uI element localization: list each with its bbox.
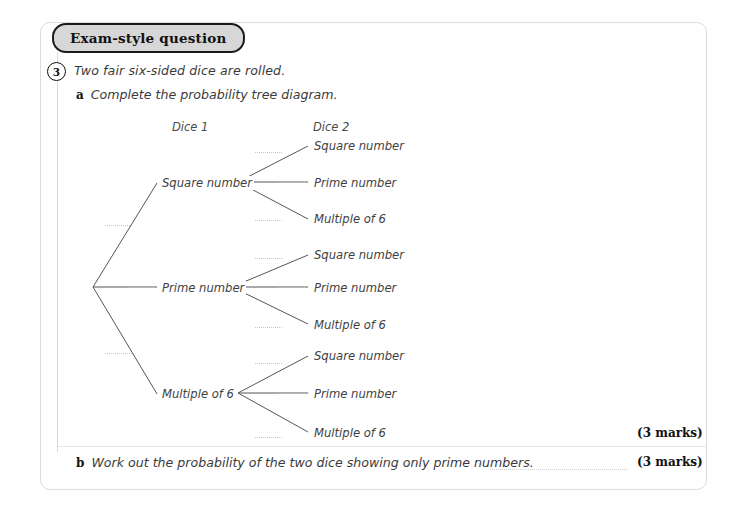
probability-blank-l2-3[interactable] bbox=[255, 219, 282, 221]
probability-blank-l2-2[interactable] bbox=[278, 181, 305, 183]
probability-blank-l2-1[interactable] bbox=[255, 151, 282, 153]
node-level2-1-prime-number: Prime number bbox=[312, 176, 398, 190]
probability-blank-l2-4[interactable] bbox=[255, 257, 282, 259]
branch-l1-3 bbox=[93, 287, 157, 394]
node-level2-3-square-number: Square number bbox=[312, 349, 406, 363]
page-root: Exam-style question 3 Two fair six-sided… bbox=[0, 0, 735, 519]
node-level1-multiple-of-6: Multiple of 6 bbox=[160, 387, 236, 401]
node-level2-1-square-number: Square number bbox=[312, 139, 406, 153]
node-level2-1-multiple-of-6: Multiple of 6 bbox=[312, 212, 388, 226]
probability-blank-l1-3[interactable] bbox=[105, 352, 132, 354]
node-level2-2-multiple-of-6: Multiple of 6 bbox=[312, 318, 388, 332]
probability-blank-l2-9[interactable] bbox=[255, 436, 282, 438]
node-level2-2-prime-number: Prime number bbox=[312, 281, 398, 295]
probability-blank-l2-6[interactable] bbox=[255, 326, 282, 328]
question-number-circle: 3 bbox=[47, 62, 66, 81]
branch-l2-9 bbox=[238, 393, 308, 432]
probability-blank-l1-1[interactable] bbox=[105, 224, 132, 226]
node-level2-3-prime-number: Prime number bbox=[312, 387, 398, 401]
column-heading-dice-2: Dice 2 bbox=[313, 120, 349, 134]
node-level1-square-number: Square number bbox=[160, 176, 254, 190]
probability-tree-diagram: Dice 1 Dice 2 Square number Prime number… bbox=[0, 0, 735, 519]
probability-blank-l2-7[interactable] bbox=[255, 362, 282, 364]
column-heading-dice-1: Dice 1 bbox=[172, 120, 208, 134]
probability-blank-l1-2[interactable] bbox=[128, 286, 155, 288]
node-level2-3-multiple-of-6: Multiple of 6 bbox=[312, 426, 388, 440]
node-level1-prime-number: Prime number bbox=[160, 281, 246, 295]
probability-blank-l2-5[interactable] bbox=[278, 286, 305, 288]
exam-style-question-badge: Exam-style question bbox=[52, 23, 245, 53]
branch-l1-1 bbox=[93, 183, 157, 287]
probability-blank-l2-8[interactable] bbox=[278, 392, 305, 394]
node-level2-2-square-number: Square number bbox=[312, 248, 406, 262]
